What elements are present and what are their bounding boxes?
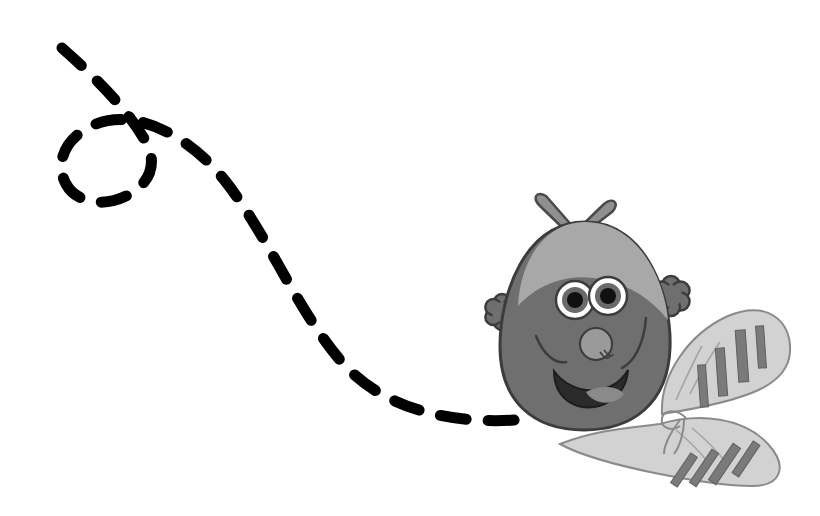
eye-pupil: [600, 288, 616, 304]
upper-wing-shape: [662, 310, 790, 414]
flight-trail-path: [61, 48, 516, 421]
upper-wing: [662, 310, 790, 414]
flight-trail-group: [61, 48, 516, 421]
eye: [589, 277, 627, 315]
bee-illustration-canvas: Cartoon bee with dashed flight trail: [0, 0, 820, 516]
nose-icon: [580, 328, 612, 360]
eye-pupil: [567, 292, 583, 308]
illustration-svg: [0, 0, 820, 516]
